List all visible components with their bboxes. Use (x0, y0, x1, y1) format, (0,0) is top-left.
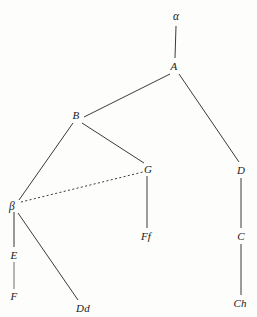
node-label-Ff: Ff (141, 231, 151, 242)
node-label-B: B (73, 110, 80, 121)
stemma-diagram: αABGDβFfCEFDdCh (0, 0, 257, 317)
node-label-G: G (144, 164, 152, 175)
edge-layer (14, 26, 241, 300)
node-label-A: A (171, 61, 178, 72)
edge-A-D (179, 74, 239, 162)
node-label-Dd: Dd (76, 303, 90, 314)
node-label-C: C (237, 231, 245, 242)
edge-beta-G (21, 172, 143, 202)
node-label-beta: β (9, 201, 15, 213)
node-label-alpha: α (173, 11, 179, 23)
edge-alpha-A (175, 26, 176, 58)
edge-A-B (84, 74, 170, 117)
edge-B-beta (19, 123, 73, 200)
node-label-D: D (237, 165, 245, 176)
edge-beta-Dd (18, 213, 78, 300)
edge-B-G (82, 123, 144, 163)
node-label-F: F (11, 291, 18, 302)
node-label-E: E (11, 250, 18, 261)
node-label-Ch: Ch (233, 298, 246, 309)
stemma-edge-canvas (0, 0, 257, 317)
